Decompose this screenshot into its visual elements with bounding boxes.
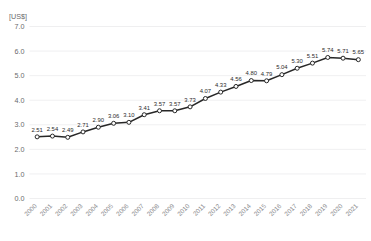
data-point-marker — [173, 109, 177, 113]
data-point-marker — [265, 79, 269, 83]
x-axis-tick-label: 2021 — [344, 202, 359, 217]
line-chart: [US$] 0.01.02.03.04.05.06.07.0 200020012… — [0, 0, 371, 241]
x-axis-ticks: 2000200120022003200420052006200720082009… — [23, 202, 360, 217]
y-axis-tick-label: 1.0 — [15, 170, 25, 179]
data-point-marker — [142, 113, 146, 117]
data-point-label: 3.06 — [108, 113, 120, 119]
data-point-label: 4.56 — [230, 76, 242, 82]
x-axis-tick-label: 2003 — [69, 202, 84, 217]
data-point-label: 4.33 — [215, 82, 227, 88]
data-point-marker — [35, 135, 39, 139]
data-point-marker — [112, 121, 116, 125]
x-axis-tick-label: 2012 — [206, 202, 221, 217]
y-axis-tick-label: 0.0 — [15, 194, 25, 203]
data-point-label: 5.51 — [307, 53, 318, 59]
data-point-marker — [326, 55, 330, 59]
x-axis-tick-label: 2004 — [84, 202, 99, 217]
data-point-label: 5.74 — [322, 47, 334, 53]
x-axis-tick-label: 2009 — [161, 202, 176, 217]
y-axis-tick-label: 3.0 — [15, 120, 25, 129]
data-point-label: 5.65 — [353, 49, 365, 55]
x-axis-tick-label: 2011 — [191, 202, 206, 217]
data-point-label: 3.73 — [184, 97, 196, 103]
data-point-label: 4.79 — [261, 71, 272, 77]
x-axis-tick-label: 2010 — [176, 202, 191, 217]
data-point-marker — [219, 90, 223, 94]
x-axis-tick-label: 2002 — [53, 202, 68, 217]
x-axis-tick-label: 2020 — [329, 202, 344, 217]
data-point-label: 3.57 — [154, 101, 165, 107]
x-axis-tick-label: 2000 — [23, 202, 38, 217]
x-axis-tick-label: 2006 — [115, 202, 130, 217]
series-data-labels: 2.512.542.492.712.903.063.103.413.573.57… — [31, 47, 364, 133]
y-axis-tick-label: 6.0 — [15, 47, 25, 56]
x-axis-tick-label: 2007 — [130, 202, 145, 217]
x-axis-tick-label: 2016 — [268, 202, 283, 217]
data-point-marker — [280, 73, 284, 77]
x-axis-tick-label: 2018 — [298, 202, 313, 217]
x-axis-tick-label: 2013 — [222, 202, 237, 217]
x-axis-tick-label: 2001 — [38, 202, 53, 217]
data-point-marker — [158, 109, 162, 113]
data-point-marker — [81, 130, 85, 134]
data-point-marker — [234, 84, 238, 88]
data-point-marker — [295, 66, 299, 70]
data-point-label: 4.80 — [246, 70, 258, 76]
data-point-label: 2.51 — [31, 127, 42, 133]
data-point-label: 3.41 — [138, 105, 149, 111]
data-point-marker — [356, 58, 360, 62]
plot-area: 0.01.02.03.04.05.06.07.0 200020012002200… — [0, 0, 371, 241]
x-axis-tick-label: 2008 — [145, 202, 160, 217]
x-axis-tick-label: 2017 — [283, 202, 298, 217]
data-point-label: 4.07 — [200, 88, 211, 94]
x-axis-tick-label: 2014 — [237, 202, 252, 217]
data-point-label: 3.57 — [169, 101, 180, 107]
data-point-marker — [341, 56, 345, 60]
data-point-label: 5.04 — [276, 64, 288, 70]
data-point-label: 2.49 — [62, 127, 73, 133]
data-point-marker — [96, 125, 100, 129]
data-point-marker — [203, 96, 207, 100]
data-point-marker — [249, 79, 253, 83]
data-point-label: 3.10 — [123, 112, 135, 118]
data-point-label: 2.90 — [93, 117, 105, 123]
data-point-marker — [66, 135, 70, 139]
data-point-marker — [50, 134, 54, 138]
x-axis-tick-label: 2019 — [313, 202, 328, 217]
x-axis-tick-label: 2015 — [252, 202, 267, 217]
data-point-label: 5.71 — [337, 48, 348, 54]
y-axis-tick-label: 5.0 — [15, 71, 25, 80]
y-axis-tick-label: 4.0 — [15, 96, 25, 105]
data-point-label: 2.71 — [77, 122, 88, 128]
data-point-label: 2.54 — [47, 126, 59, 132]
data-point-marker — [188, 105, 192, 109]
data-point-marker — [310, 61, 314, 65]
y-axis-tick-label: 2.0 — [15, 145, 25, 154]
x-axis-tick-label: 2005 — [99, 202, 114, 217]
y-axis-ticks: 0.01.02.03.04.05.06.07.0 — [15, 22, 25, 203]
data-point-marker — [127, 120, 131, 124]
y-axis-tick-label: 7.0 — [15, 22, 25, 31]
data-point-label: 5.30 — [291, 58, 303, 64]
